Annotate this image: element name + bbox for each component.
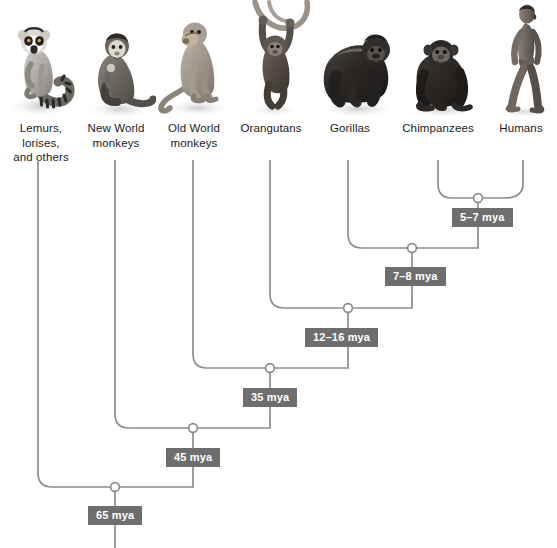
node-marker-root (111, 483, 120, 492)
primate-phylogeny-figure: Lemurs, lorises, and others New World mo… (0, 0, 557, 548)
node-marker-old-world-split (266, 364, 275, 373)
divergence-time-chip-5-7-mya: 5–7 mya (452, 208, 513, 227)
node-marker-chimp-human (474, 194, 483, 203)
divergence-time-chip-35-mya: 35 mya (243, 388, 297, 407)
join-orangutan-clade (270, 294, 412, 308)
cladogram-branches (0, 0, 557, 548)
divergence-time-chip-45-mya: 45 mya (166, 448, 220, 467)
divergence-time-chip-7-8-mya: 7–8 mya (385, 267, 446, 286)
divergence-time-chip-12-16-mya: 12–16 mya (305, 328, 378, 347)
node-marker-orangutan-split (344, 304, 353, 313)
node-marker-gorilla-split (408, 244, 417, 253)
node-marker-new-world-split (189, 424, 198, 433)
divergence-time-chip-65-mya: 65 mya (88, 506, 142, 525)
